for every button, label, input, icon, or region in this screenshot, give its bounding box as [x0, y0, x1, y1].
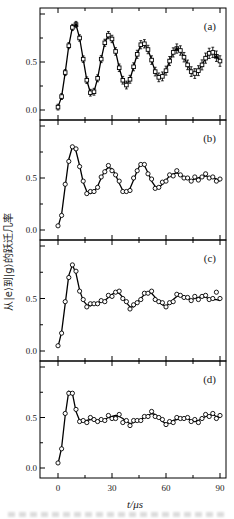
data-point-square: [186, 63, 190, 67]
data-point-square: [63, 71, 67, 75]
panel-letter: (b): [203, 132, 216, 145]
data-point-circle: [56, 344, 60, 348]
data-point-circle: [124, 300, 128, 304]
data-point-circle: [124, 418, 128, 422]
data-point-circle: [103, 418, 107, 422]
y-axis-title: 从|e⟩到|g⟩的跃迁几率: [2, 213, 15, 310]
y-tick-label: 0.5: [26, 294, 38, 304]
data-point-square: [189, 70, 193, 74]
data-point-square: [161, 75, 165, 79]
rabi-oscillation-chart: 0.00.5(a)0.00.5(b)0.00.5(c)0.00.5(d)0306…: [0, 0, 234, 519]
data-point-circle: [150, 177, 154, 181]
data-point-circle: [78, 289, 82, 293]
data-point-circle: [189, 179, 193, 183]
data-point-circle: [193, 175, 197, 179]
data-point-square: [157, 76, 161, 80]
data-point-square: [200, 63, 204, 67]
data-point-circle: [63, 411, 67, 415]
data-point-square: [143, 42, 147, 46]
data-point-square: [146, 48, 150, 52]
data-point-circle: [193, 417, 197, 421]
data-point-square: [132, 65, 136, 69]
data-point-square: [128, 77, 132, 81]
data-point-circle: [196, 178, 200, 182]
data-point-square: [114, 50, 118, 54]
data-point-circle: [67, 275, 71, 279]
data-point-circle: [146, 172, 150, 176]
panel-b: 0.00.5(b): [26, 120, 226, 240]
data-point-circle: [196, 297, 200, 301]
data-point-circle: [110, 294, 114, 298]
data-point-circle: [142, 162, 146, 166]
data-point-circle: [160, 417, 164, 421]
data-point-square: [218, 59, 222, 63]
data-point-circle: [85, 420, 89, 424]
data-point-circle: [78, 164, 82, 168]
data-point-circle: [67, 159, 71, 163]
data-point-circle: [70, 263, 74, 267]
panel-a: 0.00.5(a): [26, 8, 226, 120]
data-point-circle: [157, 185, 161, 189]
x-axis-title: t/μs: [127, 498, 143, 510]
data-point-square: [197, 69, 201, 73]
data-point-circle: [70, 391, 74, 395]
data-point-circle: [60, 331, 64, 335]
fit-curve: [58, 147, 220, 227]
data-point-circle: [218, 177, 222, 181]
data-point-circle: [204, 293, 208, 297]
panel-letter: (c): [204, 252, 217, 265]
data-point-circle: [117, 289, 121, 293]
fit-curve: [58, 265, 220, 347]
y-tick-label: 0.5: [26, 173, 38, 183]
data-point-circle: [150, 289, 154, 293]
y-tick-label: 0.0: [26, 105, 38, 115]
data-point-circle: [114, 416, 118, 420]
data-point-circle: [63, 182, 67, 186]
data-point-circle: [128, 188, 132, 192]
data-point-square: [60, 95, 64, 99]
data-point-square: [153, 70, 157, 74]
data-point-square: [171, 51, 175, 55]
data-point-square: [164, 69, 168, 73]
y-tick-label: 0.0: [26, 225, 38, 235]
data-point-circle: [214, 416, 218, 420]
x-tick-label: 60: [162, 483, 172, 493]
data-point-square: [103, 41, 107, 45]
data-point-square: [125, 83, 129, 87]
data-point-circle: [99, 175, 103, 179]
data-point-circle: [211, 175, 215, 179]
data-point-square: [89, 91, 93, 95]
data-point-square: [193, 72, 197, 76]
data-point-circle: [160, 301, 164, 305]
data-point-circle: [218, 413, 222, 417]
y-tick-label: 0.0: [26, 346, 38, 356]
panel-letter: (a): [204, 20, 217, 33]
data-point-circle: [175, 169, 179, 173]
data-point-circle: [189, 299, 193, 303]
x-tick-label: 90: [216, 483, 226, 493]
data-point-circle: [85, 305, 89, 309]
data-point-circle: [132, 176, 136, 180]
data-point-square: [117, 66, 121, 70]
data-point-circle: [171, 174, 175, 178]
cropped-caption-remnant: [8, 512, 228, 517]
data-point-circle: [106, 413, 110, 417]
data-point-circle: [164, 305, 168, 309]
data-point-circle: [81, 179, 85, 183]
data-point-square: [85, 78, 89, 82]
data-point-circle: [146, 414, 150, 418]
data-point-square: [81, 57, 85, 61]
data-point-square: [92, 90, 96, 94]
data-point-circle: [139, 297, 143, 301]
data-point-circle: [128, 423, 132, 427]
data-point-circle: [121, 296, 125, 300]
data-point-square: [204, 56, 208, 60]
data-point-square: [99, 57, 103, 61]
data-point-circle: [164, 179, 168, 183]
fit-curve: [58, 391, 220, 464]
data-point-circle: [186, 415, 190, 419]
y-tick-label: 0.5: [26, 57, 38, 67]
data-point-circle: [207, 414, 211, 418]
data-point-circle: [186, 176, 190, 180]
x-tick-label: 30: [108, 483, 118, 493]
